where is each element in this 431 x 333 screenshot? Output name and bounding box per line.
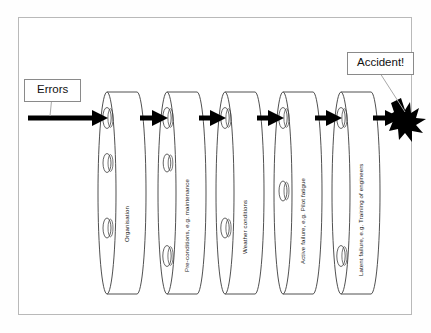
cheese-slice[interactable] <box>274 92 322 294</box>
cheese-slices-group <box>98 92 380 294</box>
cheese-slice[interactable] <box>216 92 264 294</box>
cheese-slice[interactable] <box>158 92 206 294</box>
slice-hole <box>103 218 111 238</box>
slice-label: Weather conditions <box>242 200 248 254</box>
accident-burst <box>384 98 426 142</box>
slice-hole <box>337 246 345 267</box>
error-trajectory-arrow-segment <box>28 110 108 126</box>
slice-label: Pre-conditions, e.g. maintenance <box>184 179 190 272</box>
slice-hole <box>163 154 171 172</box>
cheese-slice[interactable] <box>332 92 380 294</box>
accident-callout[interactable]: Accident! <box>347 52 414 75</box>
slice-hole <box>103 154 111 173</box>
slice-hole <box>279 181 287 201</box>
slice-hole <box>163 246 171 267</box>
accident-leader-line <box>378 70 405 112</box>
slice-label: Active failure, e.g. Pilot fatigue <box>300 178 306 264</box>
slice-label: Latent failure, e.g. Training of enginee… <box>358 163 364 276</box>
slice-hole <box>221 218 229 238</box>
diagram-canvas: OrganisationPre-conditions, e.g. mainten… <box>0 0 431 333</box>
swiss-cheese-model-graphic <box>0 0 431 333</box>
slice-label: Organisation <box>124 206 130 242</box>
errors-callout[interactable]: Errors <box>24 79 81 102</box>
cheese-slice[interactable] <box>98 92 146 294</box>
